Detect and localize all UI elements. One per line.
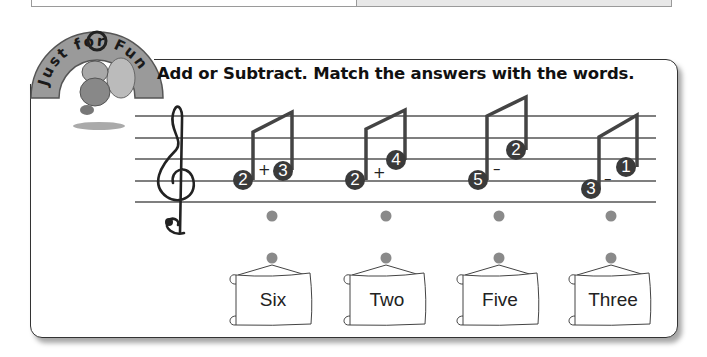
operator: – (493, 160, 501, 178)
note-number: 2 (233, 170, 253, 190)
operator: + (373, 164, 386, 182)
operator: + (258, 161, 271, 179)
word-six: Six (231, 289, 315, 311)
note-number: 5 (468, 170, 488, 190)
word-three: Three (571, 289, 655, 311)
note-number: 2 (345, 170, 365, 190)
note-number: 1 (616, 157, 636, 177)
note-number: 3 (273, 161, 293, 181)
note-number: 3 (581, 179, 601, 199)
treble-clef-icon (158, 107, 194, 234)
operator: – (604, 170, 612, 188)
word-two: Two (345, 289, 429, 311)
answer-dot-2 (381, 211, 392, 222)
note-number: 2 (506, 140, 526, 160)
answer-dot-4 (606, 211, 617, 222)
answer-dot-1 (267, 211, 278, 222)
word-five: Five (458, 289, 542, 311)
answer-dot-3 (494, 211, 505, 222)
note-number: 4 (386, 150, 406, 170)
